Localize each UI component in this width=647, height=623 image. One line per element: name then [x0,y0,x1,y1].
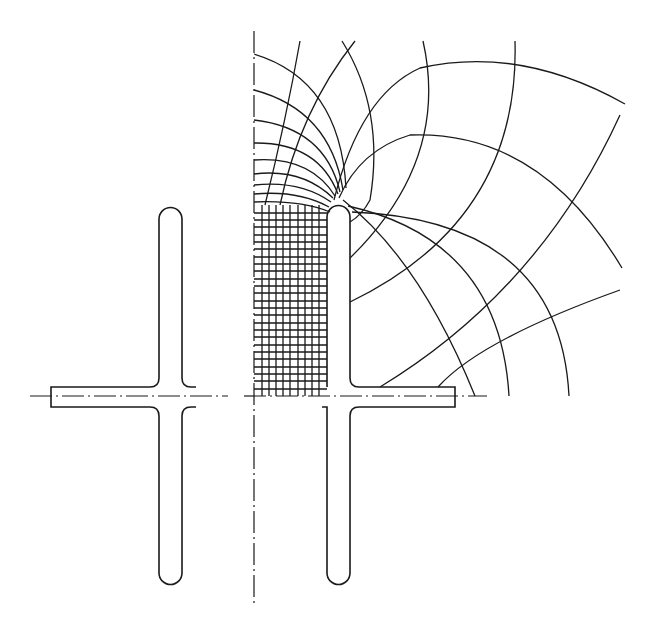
field-plot-svg [0,0,647,623]
field-plot-diagram [0,0,647,623]
uniform-grid [254,205,327,396]
right-electrode [322,206,455,585]
curves-around-tip [254,54,346,212]
